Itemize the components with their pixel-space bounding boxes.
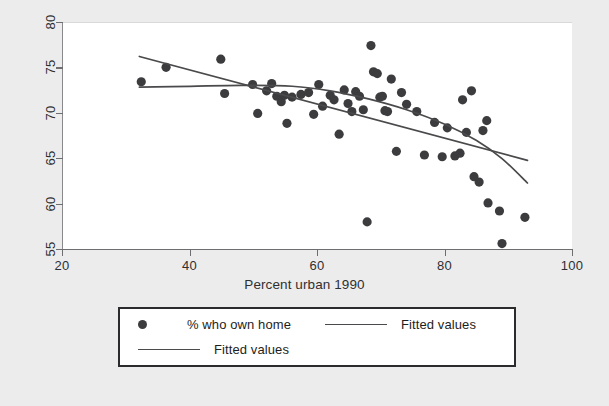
scatter-point [220,89,229,98]
legend-row: % who own home Fitted values [138,317,476,332]
x-axis-tick-mark [445,249,446,256]
scatter-point [216,55,225,64]
x-axis-tick-label: 60 [310,258,325,273]
scatter-point [378,92,387,101]
scatter-point [335,130,344,139]
scatter-point [253,109,262,118]
y-axis-tick-mark [56,158,63,159]
scatter-point [363,217,372,226]
scatter-point [314,80,323,89]
scatter-point [343,99,352,108]
x-axis-tick-mark [62,249,63,256]
line-marker-icon [325,324,387,326]
x-axis-tick-mark [572,249,573,256]
y-axis [40,22,62,249]
scatter-point [309,110,318,119]
scatter-point [387,74,396,83]
scatter-point [383,107,392,116]
scatter-point [267,79,276,88]
scatter-point [420,150,429,159]
scatter-point [438,152,447,161]
scatter-point [402,100,411,109]
plot-canvas [63,23,572,249]
x-axis-tick-label: 80 [437,258,452,273]
legend-label-own-home: % who own home [187,317,291,332]
scatter-point [455,149,464,158]
scatter-point [497,239,506,248]
legend-label-fitted-2: Fitted values [214,342,289,357]
fitted-line [139,56,527,160]
y-axis-tick-mark [56,67,63,68]
scatter-point [304,88,313,97]
scatter-point [397,88,406,97]
scatter-point [458,95,467,104]
x-axis-tick-mark [190,249,191,256]
plot-area [62,22,572,249]
y-axis-tick-mark [56,22,63,23]
scatter-point [373,69,382,78]
y-axis-tick-mark [56,113,63,114]
scatter-point [478,126,487,135]
scatter-point [495,206,504,215]
scatter-point [392,147,401,156]
scatter-point [282,119,291,128]
scatter-point [482,116,491,125]
x-axis-tick-label: 20 [55,258,70,273]
legend-entry-fitted-1: Fitted values [325,317,476,332]
x-axis-tick-label: 40 [182,258,197,273]
scatter-point [329,95,338,104]
x-axis-tick-label: 100 [561,258,583,273]
legend-row: Fitted values [138,342,289,357]
y-axis-tick-mark [56,204,63,205]
x-axis-title: Percent urban 1990 [0,277,609,292]
scatter-point [366,41,375,50]
scatter-point [359,105,368,114]
scatter-point [520,213,529,222]
x-axis-tick-mark [317,249,318,256]
scatter-point [475,178,484,187]
scatter-point [483,198,492,207]
line-marker-icon [138,349,200,351]
legend-entry-fitted-2: Fitted values [138,342,289,357]
legend-label-fitted-1: Fitted values [401,317,476,332]
scatter-point [467,86,476,95]
legend-entry-own-home: % who own home [138,317,291,332]
scatter-point [296,90,305,99]
scatter-point [137,77,146,86]
scatter-marker-icon [138,320,147,329]
chart-page: Percent urban 1990 % who own home Fitted… [0,0,609,406]
legend-box: % who own home Fitted values Fitted valu… [118,307,516,367]
